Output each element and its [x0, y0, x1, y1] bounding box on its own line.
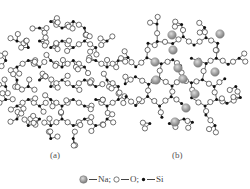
- legend: Na; O; Si: [79, 172, 164, 186]
- silicate-structure-figure: [0, 0, 250, 189]
- panel-b-glass-network: [118, 14, 248, 135]
- legend-item-o: O;: [113, 174, 139, 184]
- sodium-sphere-icon: [79, 175, 88, 184]
- panel-a-caption: (a): [50, 150, 60, 160]
- silicon-dot-icon: [141, 177, 146, 182]
- legend-item-si: Si: [141, 174, 164, 184]
- panel-a-crystalline-network: [0, 16, 128, 148]
- panel-b-caption: (b): [172, 150, 183, 160]
- oxygen-circle-icon: [113, 176, 120, 183]
- legend-item-na: Na;: [79, 174, 111, 184]
